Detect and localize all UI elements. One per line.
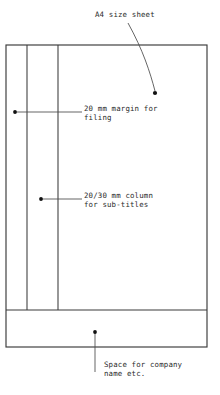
technical-drawing: A4 size sheet 20 mm margin for filing 20…	[0, 0, 220, 395]
company-leader-dot	[93, 330, 97, 334]
column-leader-dot	[39, 197, 43, 201]
sheet-annotation-label: A4 size sheet	[95, 10, 155, 19]
margin-annotation-label-line2: filing	[84, 113, 112, 122]
column-annotation-label-line2: for sub-titles	[84, 200, 148, 209]
sheet-leader-dot	[153, 91, 157, 95]
margin-annotation-label-line1: 20 mm margin for	[84, 104, 158, 113]
drawing-canvas: A4 size sheet 20 mm margin for filing 20…	[0, 0, 220, 395]
column-annotation-label-line1: 20/30 mm column	[84, 191, 153, 200]
company-annotation-label-line1: Space for company	[104, 360, 183, 369]
company-annotation-label-line2: name etc.	[104, 369, 145, 378]
margin-leader-dot	[13, 110, 17, 114]
